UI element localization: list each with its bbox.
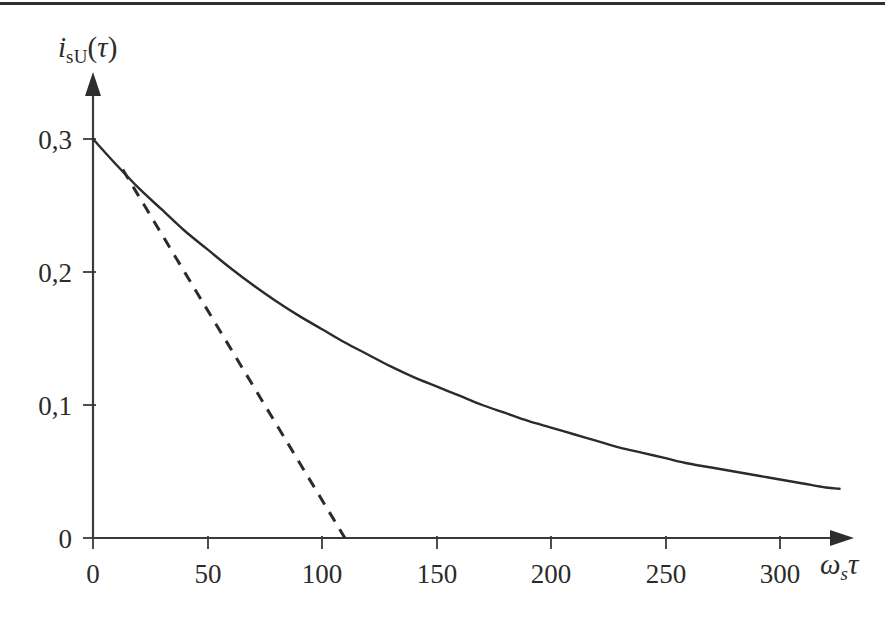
series-isU-curve — [93, 139, 840, 489]
x-tick-label-150: 150 — [417, 559, 458, 589]
y-axis-title-close-paren: ) — [108, 31, 118, 63]
x-axis-title-subscript: s — [840, 563, 847, 584]
y-axis-title: isU(τ) — [58, 33, 117, 66]
y-axis-title-symbol: i — [58, 31, 66, 63]
y-tick-label-3: 0,3 — [38, 125, 72, 155]
plot-area: 0 0,1 0,2 0,3 0 50 100 150 200 250 300 — [0, 0, 885, 621]
x-axis-title: ωsτ — [820, 550, 858, 583]
x-tick-label-0: 0 — [86, 559, 100, 589]
x-axis-title-tau: τ — [848, 548, 858, 580]
chart-figure: 0 0,1 0,2 0,3 0 50 100 150 200 250 300 i… — [0, 0, 885, 621]
y-tick-label-2: 0,2 — [38, 258, 72, 288]
x-axis-arrow-icon — [830, 530, 854, 546]
y-tick-label-0: 0 — [59, 524, 73, 554]
series-tangent-asymptote — [123, 170, 345, 538]
y-axis-arrow-icon — [85, 72, 101, 96]
x-tick-label-200: 200 — [531, 559, 572, 589]
y-axis-title-tau: τ — [97, 31, 107, 63]
y-axis-title-open-paren: ( — [88, 31, 98, 63]
x-axis-title-omega: ω — [820, 548, 840, 580]
x-tick-label-300: 300 — [760, 559, 801, 589]
x-tick-label-50: 50 — [195, 559, 222, 589]
y-axis-title-subscript: sU — [66, 46, 88, 67]
x-tick-label-250: 250 — [646, 559, 687, 589]
y-tick-label-1: 0,1 — [38, 391, 72, 421]
x-tick-label-100: 100 — [302, 559, 343, 589]
